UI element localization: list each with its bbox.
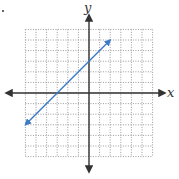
coordinate-plane: x y (0, 0, 179, 179)
x-axis-label: x (167, 85, 175, 100)
y-axis-label: y (83, 0, 92, 15)
axes (6, 15, 165, 172)
